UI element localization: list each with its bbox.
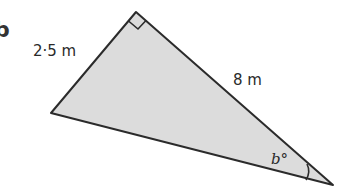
side-length-long: 8 m bbox=[233, 73, 262, 88]
part-label: b bbox=[0, 19, 10, 41]
triangle-diagram bbox=[0, 0, 347, 189]
side-length-short: 2·5 m bbox=[33, 44, 76, 59]
angle-label: b° bbox=[271, 152, 288, 167]
right-triangle bbox=[51, 12, 333, 185]
